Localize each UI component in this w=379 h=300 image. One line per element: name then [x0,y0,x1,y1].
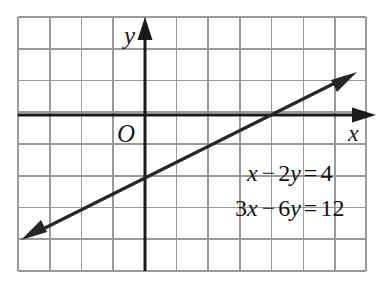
origin-label: O [117,120,135,147]
eq1-var-x: x [246,160,258,186]
eq2-minus: − [262,195,276,221]
eq2-var-y: y [288,195,301,221]
figure-background [0,0,379,300]
eq1-minus: − [262,160,276,186]
eq2-var-x: x [246,195,258,221]
eq2-coefficient-1: 3 [235,195,247,221]
eq2-rhs: 12 [320,195,344,221]
eq2-equals: = [304,195,318,221]
y-axis-label: y [121,22,136,49]
eq1-var-y: y [288,160,301,186]
equation-1: x−2y=4 [205,160,362,186]
coordinate-figure: y x O x−2y=4 3x−6y=12 [0,0,379,300]
eq1-equals: = [304,160,318,186]
coordinate-plane-graphic: y x O x−2y=4 3x−6y=12 [0,0,379,300]
eq1-rhs: 4 [320,160,332,186]
equation-2: 3x−6y=12 [193,195,374,221]
eq2-coefficient-2: 6 [278,195,290,221]
eq1-coefficient: 2 [278,160,290,186]
x-axis-label: x [347,120,359,146]
